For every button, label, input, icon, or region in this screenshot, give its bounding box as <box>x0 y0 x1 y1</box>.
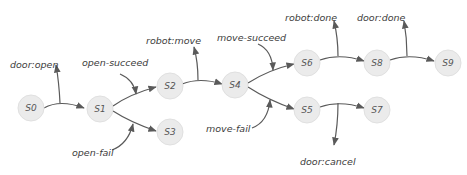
state-node-s7: S7 <box>364 97 390 123</box>
state-node-s1: S1 <box>87 96 113 122</box>
state-diagram: S0 S1 S2 S3 S4 S5 S6 S7 S8 S9 door:open … <box>0 0 467 175</box>
event-label-robot-done: robot:done <box>285 12 337 23</box>
input-open-fail <box>112 124 133 150</box>
output-robot-done <box>334 21 338 56</box>
event-label-move-succeed: move-succeed <box>217 32 287 43</box>
input-move-succeed <box>258 44 273 70</box>
event-label-robot-move: robot:move <box>146 35 201 46</box>
edge-s1-s3 <box>113 111 156 131</box>
state-node-s3: S3 <box>157 119 183 145</box>
edge-s6-s8 <box>320 57 364 61</box>
state-label: S7 <box>371 105 383 115</box>
event-label-open-fail: open-fail <box>72 147 114 158</box>
edge-s4-s6 <box>248 64 294 83</box>
edge-s2-s4 <box>182 81 222 85</box>
state-label: S4 <box>229 80 241 90</box>
output-robot-move <box>194 47 198 80</box>
event-label-door-open: door:open <box>10 59 58 70</box>
event-label-open-succeed: open-succeed <box>82 57 149 68</box>
state-node-s0: S0 <box>18 95 44 121</box>
input-open-succeed <box>120 74 136 94</box>
state-node-s2: S2 <box>157 73 183 99</box>
edge-s8-s9 <box>390 57 434 61</box>
event-label-move-fail: move-fail <box>206 123 251 134</box>
state-node-s6: S6 <box>294 50 320 76</box>
state-label: S1 <box>94 104 105 114</box>
state-label: S9 <box>442 58 454 68</box>
output-door-cancel <box>334 103 338 145</box>
state-node-s5: S5 <box>294 97 320 123</box>
state-node-s4: S4 <box>222 72 248 98</box>
output-door-done <box>404 21 407 56</box>
edge-s5-s7 <box>320 104 364 108</box>
edge-s4-s5 <box>248 87 294 109</box>
state-label: S6 <box>301 58 313 68</box>
event-label-door-cancel: door:cancel <box>300 156 356 167</box>
output-door-open <box>56 65 60 103</box>
state-node-s9: S9 <box>435 50 461 76</box>
state-label: S5 <box>301 105 313 115</box>
state-label: S2 <box>164 81 176 91</box>
state-node-s8: S8 <box>364 50 390 76</box>
state-label: S8 <box>371 58 383 68</box>
edge-s0-s1 <box>44 104 84 109</box>
event-label-door-done: door:done <box>357 12 406 23</box>
input-move-fail <box>252 100 270 128</box>
state-label: S0 <box>25 103 37 113</box>
state-label: S3 <box>164 127 176 137</box>
